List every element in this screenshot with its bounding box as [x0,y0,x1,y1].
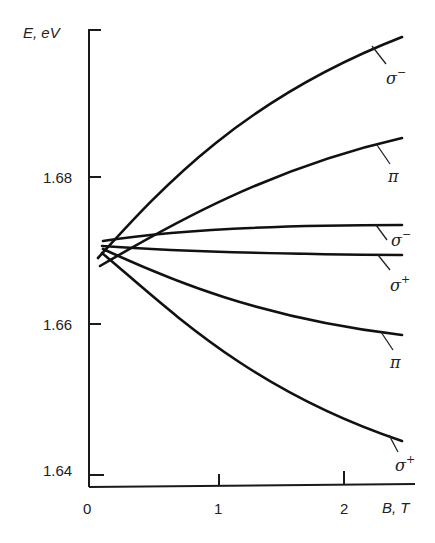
x-tick-label-1: 1 [214,500,222,517]
curve-label-sigma-minus-inner: σ− [391,228,411,250]
curve-label-sigma-minus-upper: σ− [386,66,406,88]
zeeman-splitting-chart: E, eV B, T 1.68 1.66 1.64 0 1 2 σ− π σ− … [0,0,435,543]
curve-label-sigma-plus-lower: σ+ [395,453,415,475]
curve-pi-upper [100,138,402,266]
curve-label-pi-lower: π [389,353,401,372]
y-tick-label-1.64: 1.64 [43,462,72,479]
curve-label-pi-upper: π [387,167,399,186]
y-tick-label-1.68: 1.68 [43,169,72,186]
x-axis-title: B, T [382,499,411,516]
x-axis [89,484,415,487]
curve-label-sigma-plus-inner: σ+ [390,273,410,295]
y-tick-label-1.66: 1.66 [43,316,72,333]
x-tick-label-0: 0 [83,500,91,517]
y-axis-title: E, eV [23,24,62,41]
curves [98,37,402,441]
curve-sigma-plus-lower [102,253,402,441]
curve-sigma-plus-inner [102,246,402,255]
x-tick-label-2: 2 [340,500,348,517]
axes [89,30,415,487]
